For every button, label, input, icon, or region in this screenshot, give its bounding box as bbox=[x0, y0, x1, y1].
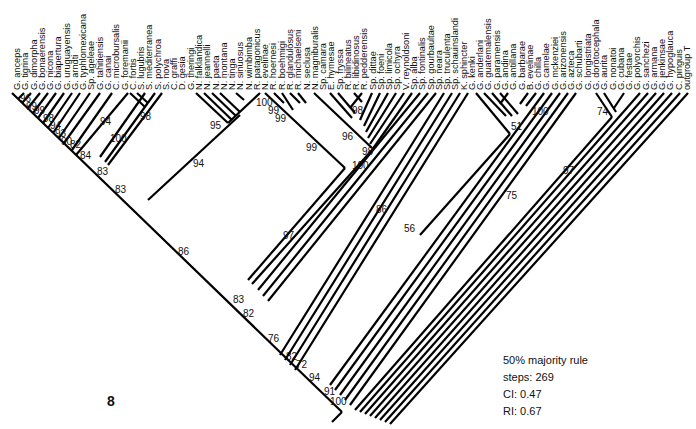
support-value: 98 bbox=[352, 106, 363, 116]
support-value: 99 bbox=[275, 114, 286, 124]
support-value: 82 bbox=[70, 140, 81, 150]
support-value: 84 bbox=[80, 151, 91, 161]
support-value: 98 bbox=[140, 112, 151, 122]
support-value: 74 bbox=[597, 107, 608, 117]
support-value: 76 bbox=[268, 334, 279, 344]
support-value: 51 bbox=[511, 122, 522, 132]
legend-ri: RI: 0.67 bbox=[503, 403, 588, 420]
support-value: 83 bbox=[97, 167, 108, 177]
support-value: 97 bbox=[563, 166, 574, 176]
support-value: 100 bbox=[532, 107, 549, 117]
support-value: 100 bbox=[110, 134, 127, 144]
taxon-labels: G. ancepsG. tigrinaG. dimorphaG. bonaere… bbox=[0, 0, 696, 90]
tree-legend: 50% majority rule steps: 269 CI: 0.47 RI… bbox=[503, 352, 588, 420]
support-value: 94 bbox=[193, 159, 204, 169]
support-value: 83 bbox=[115, 185, 126, 195]
support-value: 94 bbox=[309, 373, 320, 383]
legend-method: 50% majority rule bbox=[503, 352, 588, 369]
support-value: 96 bbox=[342, 132, 353, 142]
support-value: 97 bbox=[283, 231, 294, 241]
support-value: 100 bbox=[352, 161, 369, 171]
support-value: 86 bbox=[376, 205, 387, 215]
legend-ci: CI: 0.47 bbox=[503, 386, 588, 403]
phylogenetic-tree: G. ancepsG. tigrinaG. dimorphaG. bonaere… bbox=[0, 0, 696, 429]
legend-steps: steps: 269 bbox=[503, 369, 588, 386]
support-value: 75 bbox=[506, 191, 517, 201]
support-value: 99 bbox=[306, 143, 317, 153]
figure-number: 8 bbox=[107, 393, 115, 409]
support-value: 82 bbox=[243, 309, 254, 319]
support-value: 83 bbox=[233, 295, 244, 305]
support-value: 72 bbox=[296, 360, 307, 370]
taxon-label: outgroup T bbox=[683, 46, 692, 90]
support-value: 94 bbox=[100, 117, 111, 127]
support-value: 95 bbox=[210, 121, 221, 131]
support-value: 86 bbox=[178, 247, 189, 257]
support-value: 100 bbox=[330, 397, 347, 407]
support-value: 56 bbox=[404, 224, 415, 234]
support-value: 98 bbox=[362, 147, 373, 157]
